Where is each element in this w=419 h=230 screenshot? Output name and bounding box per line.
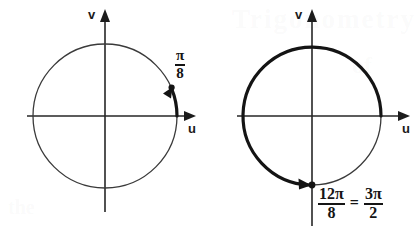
right-angle-label-fraction-left: 12π 8 — [318, 186, 345, 222]
right-u-axis-label: u — [402, 122, 410, 135]
left-v-axis-arrowhead — [100, 9, 110, 22]
right-terminal-point-dot — [309, 182, 316, 189]
left-v-axis-label: v — [88, 8, 95, 21]
right-angle-right-denominator: 2 — [368, 205, 378, 221]
right-angle-label-fraction-right: 3π 2 — [364, 186, 383, 222]
right-angle-left-numerator: 12π — [318, 186, 345, 202]
left-u-axis-arrowhead — [184, 111, 196, 121]
right-v-axis-label: v — [295, 8, 302, 21]
right-angle-right-numerator: 3π — [364, 186, 383, 202]
left-angle-label-fraction: π 8 — [175, 48, 185, 82]
left-u-axis-label: u — [188, 122, 196, 135]
left-diagram-group — [27, 9, 196, 212]
right-v-axis-arrowhead — [307, 9, 317, 22]
trig-unit-circle-figure: Trigonometry of the — [0, 0, 419, 230]
left-angle-denominator: 8 — [175, 66, 185, 81]
left-angle-arc — [172, 88, 178, 116]
right-angle-equals-sign: = — [350, 194, 359, 213]
right-u-axis-arrowhead — [398, 111, 410, 121]
right-angle-label-equation: 12π 8 = 3π 2 — [318, 186, 383, 222]
left-angle-numerator: π — [175, 48, 185, 63]
left-terminal-point-dot — [169, 85, 175, 91]
right-angle-left-denominator: 8 — [326, 205, 336, 221]
